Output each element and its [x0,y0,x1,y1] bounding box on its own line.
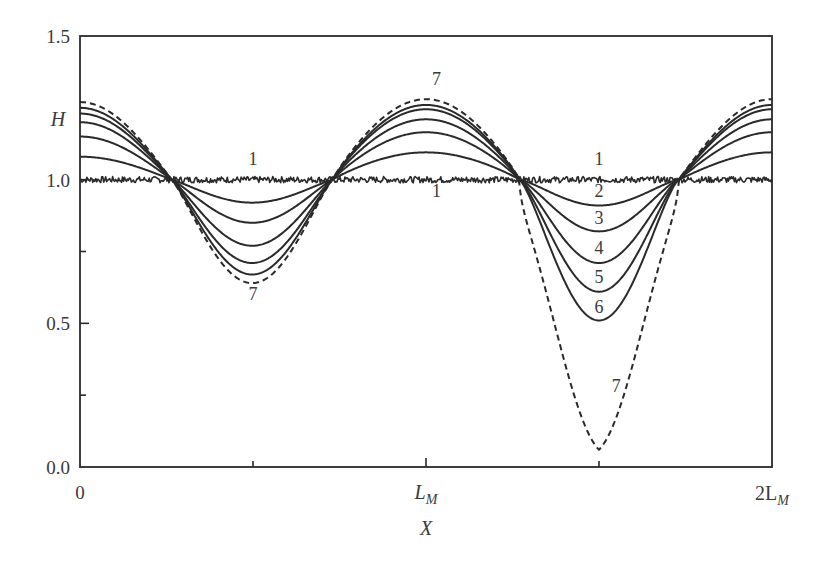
curve-6 [80,105,772,321]
x-axis-label: X [419,517,433,539]
plot-frame [80,36,772,467]
curve-label-7: 7 [432,69,441,89]
x-tick-label-0: 0 [75,482,85,503]
curve-label-7: 7 [612,376,621,396]
curve-label-2: 2 [595,181,604,201]
curve-4 [80,119,772,263]
curve-number-labels: 11123456777 [249,69,621,396]
x-tick-label-lm: LM [414,481,439,507]
curve-label-1: 1 [595,149,604,169]
y-tick-label-1-0: 1.0 [46,170,70,191]
x-tick-label-2lm: 2LM [755,482,790,508]
y-tick-label-0-0: 0.0 [46,457,70,478]
curve-label-3: 3 [595,208,604,228]
curve-5 [80,109,772,291]
curves-group [80,99,772,450]
curve-label-7: 7 [249,284,258,304]
curve-label-1: 1 [249,149,258,169]
y-tick-label-0-5: 0.5 [46,313,70,334]
y-tick-label-1-5: 1.5 [46,26,70,47]
curve-label-1: 1 [432,181,441,201]
curve-label-5: 5 [595,267,604,287]
curve-label-6: 6 [595,297,604,317]
y-axis-label: H [50,108,67,130]
chart: 1.5 1.0 0.5 0.0 H 0 LM 2LM X 11123456777 [0,0,826,566]
curve-label-4: 4 [595,238,604,258]
